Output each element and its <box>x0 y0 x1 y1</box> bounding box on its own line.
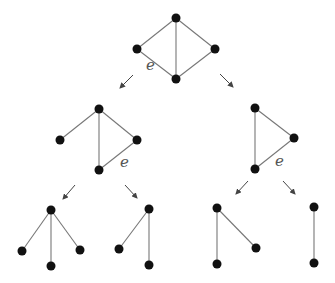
graph-vertex <box>172 75 181 84</box>
edge-label-e: e <box>146 56 155 74</box>
graph-vertex <box>47 206 56 215</box>
graph-bottom-3 <box>213 204 261 269</box>
graph-edge <box>176 18 215 49</box>
graph-vertex <box>115 245 124 254</box>
graph-vertex <box>18 247 27 256</box>
graph-mid-left: e <box>56 105 142 175</box>
edge-label-e: e <box>275 152 284 170</box>
graph-vertex <box>172 14 181 23</box>
graphs: eee <box>18 14 319 271</box>
arrow-icon <box>236 181 248 194</box>
graph-edge <box>217 208 256 248</box>
arrows <box>63 74 295 199</box>
graph-edge <box>119 209 149 249</box>
graph-tree-diagram: eee <box>0 0 335 283</box>
graph-vertex <box>133 136 142 145</box>
arrow-icon <box>220 74 233 87</box>
graph-edge <box>99 109 137 140</box>
graph-mid-right: e <box>251 104 299 174</box>
graph-vertex <box>211 45 220 54</box>
graph-vertex <box>76 246 85 255</box>
graph-vertex <box>95 166 104 175</box>
graph-edge <box>60 109 99 140</box>
graph-bottom-1 <box>18 206 85 271</box>
graph-vertex <box>252 244 261 253</box>
graph-vertex <box>213 204 222 213</box>
graph-vertex <box>95 105 104 114</box>
graph-edge <box>255 108 294 138</box>
graph-edge <box>51 210 80 250</box>
arrow-icon <box>120 75 133 88</box>
graph-edge <box>137 18 176 49</box>
graph-vertex <box>133 45 142 54</box>
graph-vertex <box>251 104 260 113</box>
graph-vertex <box>213 260 222 269</box>
graph-edge <box>99 140 137 170</box>
graph-edge <box>137 49 176 79</box>
graph-root: e <box>133 14 220 84</box>
graph-vertex <box>47 262 56 271</box>
arrow-icon <box>63 185 75 199</box>
graph-vertex <box>145 205 154 214</box>
arrow-icon <box>125 185 137 198</box>
graph-vertex <box>310 203 319 212</box>
graph-edge <box>22 210 51 251</box>
graph-vertex <box>310 259 319 268</box>
arrow-icon <box>283 181 295 194</box>
graph-vertex <box>251 165 260 174</box>
graph-bottom-4 <box>310 203 319 268</box>
graph-edge <box>176 49 215 79</box>
graph-vertex <box>145 261 154 270</box>
graph-vertex <box>290 134 299 143</box>
graph-vertex <box>56 136 65 145</box>
graph-bottom-2 <box>115 205 154 270</box>
edge-label-e: e <box>120 153 129 171</box>
